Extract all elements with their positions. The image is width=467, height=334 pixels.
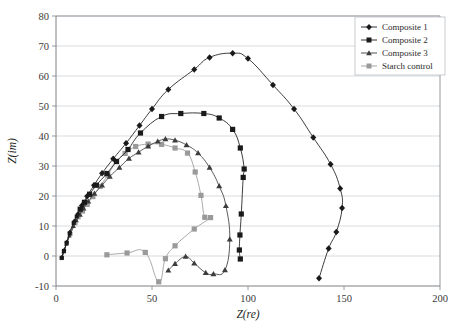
- y-tick-label-60: 60: [39, 71, 50, 82]
- y-tick-label--10: -10: [35, 281, 49, 292]
- data-point-marker: [163, 256, 168, 261]
- data-point-marker: [241, 175, 246, 180]
- legend-label-composite-2: Composite 2: [382, 35, 428, 45]
- chart-canvas: -1001020304050607080050100150200Z(re)Z(i…: [0, 0, 467, 334]
- data-point-marker: [367, 64, 372, 69]
- data-point-marker: [239, 211, 244, 216]
- x-tick-label-100: 100: [240, 293, 256, 304]
- x-tick-label-150: 150: [336, 293, 352, 304]
- data-point-marker: [242, 166, 247, 171]
- data-point-marker: [138, 130, 143, 135]
- nyquist-plot: -1001020304050607080050100150200Z(re)Z(i…: [0, 0, 467, 334]
- data-point-marker: [238, 256, 243, 261]
- data-point-marker: [237, 247, 242, 252]
- x-axis-title: Z(re): [236, 308, 259, 321]
- data-point-marker: [172, 243, 177, 248]
- legend: Composite 1Composite 2Composite 3Starch …: [355, 17, 445, 75]
- data-point-marker: [238, 145, 243, 150]
- legend-label-starch-control: Starch control: [382, 61, 433, 71]
- data-point-marker: [230, 127, 235, 132]
- y-tick-label-10: 10: [39, 221, 50, 232]
- data-point-marker: [193, 169, 198, 174]
- data-point-marker: [237, 232, 242, 237]
- data-point-marker: [185, 151, 190, 156]
- data-point-marker: [367, 38, 372, 43]
- data-point-marker: [104, 252, 109, 257]
- x-tick-label-0: 0: [53, 293, 58, 304]
- data-point-marker: [159, 114, 164, 119]
- data-point-marker: [156, 279, 161, 284]
- data-point-marker: [202, 215, 207, 220]
- legend-label-composite-1: Composite 1: [382, 22, 428, 32]
- data-point-marker: [208, 215, 213, 220]
- y-tick-label-70: 70: [39, 41, 50, 52]
- data-point-marker: [192, 226, 197, 231]
- x-tick-label-50: 50: [147, 293, 158, 304]
- data-point-marker: [217, 115, 222, 120]
- data-point-marker: [198, 193, 203, 198]
- y-tick-label-80: 80: [39, 11, 50, 22]
- data-point-marker: [178, 111, 183, 116]
- y-tick-label-30: 30: [39, 161, 50, 172]
- x-tick-label-200: 200: [432, 293, 448, 304]
- data-point-marker: [125, 147, 130, 152]
- data-point-marker: [133, 144, 138, 149]
- data-point-marker: [143, 250, 148, 255]
- data-point-marker: [172, 145, 177, 150]
- data-point-marker: [124, 250, 129, 255]
- y-tick-label-0: 0: [44, 251, 49, 262]
- data-point-marker: [104, 171, 109, 176]
- y-tick-label-40: 40: [39, 131, 50, 142]
- y-tick-label-50: 50: [39, 101, 50, 112]
- y-axis-title: Z(im): [6, 138, 19, 164]
- data-point-marker: [201, 111, 206, 116]
- legend-label-composite-3: Composite 3: [382, 48, 428, 58]
- y-tick-label-20: 20: [39, 191, 50, 202]
